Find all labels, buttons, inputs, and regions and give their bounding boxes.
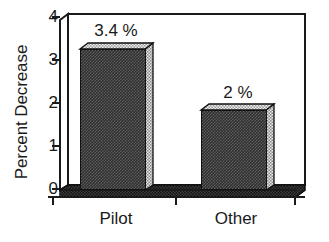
- x-tick-mark-middle: [175, 196, 177, 205]
- x-tick-mark-left: [52, 196, 54, 205]
- bar-other-side-face: [266, 104, 274, 190]
- bar-other-front-face: [201, 110, 267, 190]
- x-tick-label-other: Other: [196, 210, 276, 227]
- bar-chart: Percent Decrease 4 3 2 1 0: [0, 0, 329, 242]
- x-tick-mark-right: [294, 196, 296, 205]
- bar-other-value-label: 2 %: [198, 84, 278, 101]
- bar-other[interactable]: [0, 0, 329, 242]
- x-tick-label-pilot: Pilot: [76, 210, 156, 227]
